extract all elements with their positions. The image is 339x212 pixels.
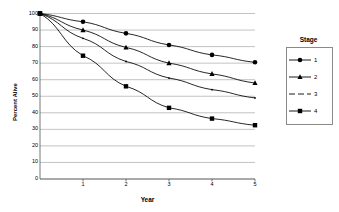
legend-marker-dot-icon	[287, 88, 313, 100]
x-axis-title: Year	[40, 196, 255, 203]
plot-area: Percent Alive 0102030405060708090100 123…	[0, 0, 275, 212]
gridlines	[40, 14, 255, 180]
x-tick-label: 2	[124, 181, 127, 187]
series-2	[37, 11, 257, 85]
x-tick-label: 1	[81, 181, 84, 187]
legend-item-3[interactable]: 3	[287, 87, 332, 101]
legend-item-label: 4	[314, 108, 317, 114]
axis-lines	[40, 13, 255, 180]
legend-item-label: 3	[314, 91, 317, 97]
x-axis-tick-labels: 12345	[40, 181, 255, 191]
legend-item-1[interactable]: 1	[287, 53, 332, 67]
x-tick-label: 3	[167, 181, 170, 187]
legend-item-4[interactable]: 4	[287, 104, 332, 118]
legend-marker-square-icon	[287, 105, 313, 117]
x-tick-label: 4	[210, 181, 213, 187]
legend-title: Stage	[286, 36, 331, 43]
legend-marker-circle-icon	[287, 54, 313, 66]
data-series-layer	[37, 11, 257, 128]
series-1	[38, 11, 258, 64]
legend-item-2[interactable]: 2	[287, 70, 332, 84]
legend-item-label: 1	[314, 57, 317, 63]
legend-item-label: 2	[314, 74, 317, 80]
chart-figure: Percent Alive 0102030405060708090100 123…	[0, 0, 339, 212]
x-tick-label: 5	[253, 181, 256, 187]
legend-marker-triangle-icon	[287, 71, 313, 83]
legend-box: 1234	[286, 47, 333, 125]
